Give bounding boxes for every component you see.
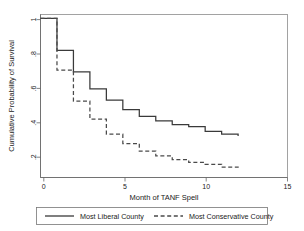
series-line-most-liberal-county bbox=[41, 18, 239, 136]
survival-chart-figure: .2 .4 .6 .8 1 0 5 10 15 Month of TANF Sp… bbox=[0, 0, 304, 231]
x-axis-title: Month of TANF Spell bbox=[130, 193, 199, 202]
series-line-most-conservative-county bbox=[41, 18, 239, 170]
x-tick-label-3: 15 bbox=[284, 183, 292, 190]
y-tick-label-2: .6 bbox=[30, 85, 37, 91]
y-tick-group: .2 .4 .6 .8 1 bbox=[30, 18, 41, 161]
legend-label-most-conservative-county: Most Conservative County bbox=[189, 212, 274, 221]
chart-canvas: .2 .4 .6 .8 1 0 5 10 15 Month of TANF Sp… bbox=[0, 0, 304, 231]
x-tick-label-2: 10 bbox=[202, 183, 210, 190]
x-tick-label-0: 0 bbox=[42, 183, 46, 190]
y-tick-label-1: .4 bbox=[30, 120, 37, 126]
y-tick-label-3: .8 bbox=[30, 51, 37, 57]
plot-frame bbox=[41, 15, 288, 178]
x-tick-label-1: 5 bbox=[123, 183, 127, 190]
legend: Most Liberal County Most Conservative Co… bbox=[37, 208, 274, 225]
x-tick-group: 0 5 10 15 bbox=[42, 178, 292, 191]
y-tick-label-0: .2 bbox=[30, 154, 37, 160]
legend-label-most-liberal-county: Most Liberal County bbox=[80, 212, 144, 221]
y-axis-title: Cumulative Probability of Survival bbox=[7, 40, 16, 152]
y-tick-label-4: 1 bbox=[30, 18, 37, 22]
